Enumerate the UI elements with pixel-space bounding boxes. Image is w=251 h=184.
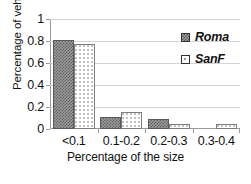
bar-sanf-1 [121,112,142,129]
bar-sanf-0 [74,44,95,129]
bar-sanf-3 [216,124,237,130]
y-tick-mark [46,19,50,20]
x-tick-label: 0.1-0.2 [98,133,146,149]
y-axis-line [50,19,51,129]
y-tick-label: 0 [10,123,44,136]
bar-sanf-2 [169,124,190,129]
y-tick-label: 1 [10,13,44,26]
legend-label: SanF [195,52,225,66]
x-axis-title: Percentage of the size [0,150,251,164]
y-tick-mark [46,85,50,86]
x-tick-label: <0.1 [50,133,98,149]
bar-roma-0 [53,40,74,129]
x-tick-label: 0.2-0.3 [145,133,193,149]
chart-legend: RomaSanF [181,28,229,72]
y-tick-label: 0.6 [10,57,44,70]
y-tick-label: 0.4 [10,79,44,92]
bar-roma-2 [148,119,169,129]
legend-item-sanf: SanF [181,50,229,68]
bar-chart: Percentage of vehchles 00.20.40.60.81 <0… [0,0,251,184]
legend-label: Roma [195,30,229,44]
y-tick-mark [46,41,50,42]
y-tick-mark [46,63,50,64]
y-tick-label: 0.8 [10,35,44,48]
x-tick-label: 0.3-0.4 [193,133,241,149]
x-axis-tick-labels: <0.10.1-0.20.2-0.30.3-0.4 [50,133,240,149]
bar-roma-1 [100,117,121,129]
legend-item-roma: Roma [181,28,229,46]
y-tick-mark [46,107,50,108]
y-tick-label: 0.2 [10,101,44,114]
legend-swatch-sanf-icon [181,55,190,64]
legend-swatch-roma-icon [181,33,190,42]
y-tick-mark [46,129,50,130]
gridline [50,19,240,20]
